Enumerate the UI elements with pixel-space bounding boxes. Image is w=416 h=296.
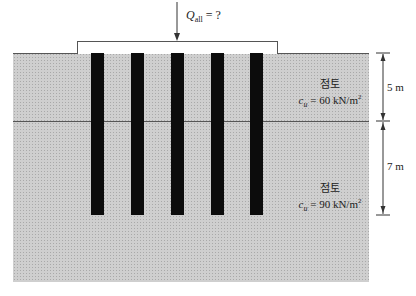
layer-1-thickness: 5 m <box>387 81 404 93</box>
pile-1 <box>91 53 104 215</box>
layer-2-label: 점토 cu = 90 kN/m2 <box>290 182 370 215</box>
layer-1-label: 점토 cu = 60 kN/m2 <box>290 78 370 111</box>
layer-boundary-line <box>13 121 369 122</box>
pile-3 <box>171 53 184 215</box>
pile-5 <box>250 53 263 215</box>
layer-1-strength: cu = 60 kN/m2 <box>290 91 370 111</box>
load-arrow-icon <box>170 0 184 42</box>
layer-2-thickness: 7 m <box>387 160 404 172</box>
layer-1-name: 점토 <box>290 78 370 91</box>
layer-2-name: 점토 <box>290 182 370 195</box>
pile-4 <box>211 53 224 215</box>
load-label: Qall = ? <box>186 8 221 24</box>
layer-2-strength: cu = 90 kN/m2 <box>290 195 370 215</box>
dimension-lines <box>370 48 400 223</box>
pile-2 <box>131 53 144 215</box>
